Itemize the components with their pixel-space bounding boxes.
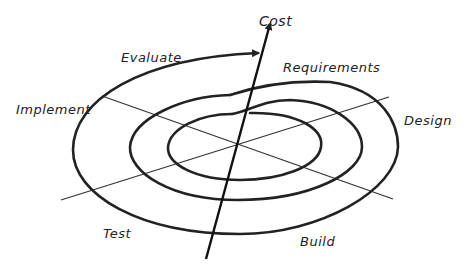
divider-line-a bbox=[102, 96, 393, 199]
phase-label-design: Design bbox=[404, 113, 452, 128]
cost-axis bbox=[206, 24, 270, 259]
phase-label-implement: Implement bbox=[16, 102, 91, 117]
phase-label-build: Build bbox=[300, 234, 335, 249]
divider-line-b bbox=[61, 97, 389, 200]
phase-label-test: Test bbox=[103, 226, 131, 241]
spiral-model-diagram bbox=[0, 0, 470, 274]
phase-label-requirements: Requirements bbox=[283, 60, 380, 75]
cost-axis-label: Cost bbox=[259, 13, 292, 29]
phase-label-evaluate: Evaluate bbox=[121, 50, 182, 65]
